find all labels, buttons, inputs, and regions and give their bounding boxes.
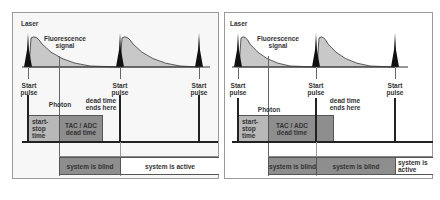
active-box: system is active [120,157,219,175]
pulse-tick [120,68,121,79]
pulse-tick [395,68,396,79]
start-line [394,98,396,142]
start-stop-box: start- stop time [238,115,269,142]
start-pulse-label: Start pulse [108,82,132,96]
tac-adc-box: TAC / ADC dead time [268,115,334,142]
dead-time-label: dead time ends here [84,97,118,111]
fluorescence-label: Fluorescence signal [42,35,88,49]
blind-box-1: system is blind [268,157,317,175]
start-line [198,95,200,142]
blind-box-2: system is blind [316,157,396,175]
pulse-tick [199,68,200,79]
start-stop-box: start- stop time [28,115,60,142]
start-line [27,95,29,142]
start-line [237,98,239,142]
pulse-tick [238,68,239,79]
pulse-tick [28,68,29,79]
start-pulse-label: Start pulse [226,82,250,96]
start-line [119,95,121,142]
tac-adc-box: TAC / ADC dead time [59,115,103,142]
pulse-tick [316,68,317,79]
timeline-baseline [232,141,433,143]
active-box: system is active [395,157,433,175]
start-pulse-label: Start pulse [17,82,41,96]
blind-box: system is blind [59,157,121,175]
photon-label: Photon [255,106,283,113]
photon-label: Photon [46,101,74,108]
start-pulse-label: Start pulse [187,82,211,96]
start-pulse-label: Start pulse [383,82,407,96]
fluorescence-label: Fluorescence signal [255,35,301,49]
dead-time-label: dead time ends here [328,97,362,111]
laser-label: Laser [230,20,247,27]
start-line [315,98,317,142]
laser-label: Laser [21,20,38,27]
start-pulse-label: Start pulse [304,82,328,96]
